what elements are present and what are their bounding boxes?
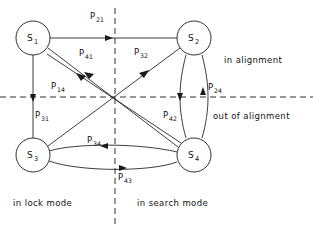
- edge-label-p42-sub: 42: [169, 115, 177, 122]
- node-s2-subscript: 2: [195, 38, 199, 46]
- edge-p43: [49, 161, 177, 171]
- edge-label-p42-base: P: [163, 110, 168, 120]
- region-label-in-lock-mode: in lock mode: [13, 198, 72, 208]
- edge-label-p31: P 31: [35, 110, 49, 122]
- edge-label-p21-base: P: [90, 11, 95, 21]
- node-s4-circle[interactable]: [177, 138, 211, 172]
- node-s1-subscript: 1: [34, 38, 38, 46]
- region-label-in-search-mode: in search mode: [137, 198, 208, 208]
- edge-label-p24-base: P: [208, 82, 213, 92]
- arrow-head-p24: [200, 87, 206, 95]
- edge-p21: [50, 35, 177, 41]
- edge-label-p14-base: P: [51, 81, 56, 91]
- node-s4-label: S: [188, 150, 194, 160]
- arrow-head-p31: [30, 94, 36, 102]
- node-s2-circle[interactable]: [177, 21, 211, 55]
- edge-label-p41-base: P: [79, 48, 84, 58]
- edge-label-p41-sub: 41: [85, 53, 93, 60]
- edge-label-p43: P 43: [118, 172, 132, 184]
- markov-chain-graph: S 1 S 2 S 3 S 4 P 21 P 41 P 32: [0, 0, 313, 236]
- edge-label-p32-sub: 32: [140, 52, 148, 59]
- region-label-out-of-alignment: out of alignment: [213, 111, 290, 121]
- node-s3[interactable]: S 3: [16, 138, 50, 172]
- node-s1[interactable]: S 1: [16, 21, 50, 55]
- edge-label-p31-sub: 31: [41, 115, 49, 122]
- arrow-head-p21: [105, 35, 113, 41]
- node-s2[interactable]: S 2: [177, 21, 211, 55]
- node-s1-circle[interactable]: [16, 21, 50, 55]
- edge-p42: [177, 55, 186, 138]
- edge-label-p24-sub: 24: [214, 87, 222, 94]
- edge-p24: [200, 55, 208, 138]
- arrow-head-p43: [119, 165, 127, 171]
- region-label-in-alignment: in alignment: [224, 55, 282, 65]
- edge-label-p43-base: P: [118, 172, 123, 182]
- edge-label-p41: P 41: [79, 48, 93, 60]
- state-transition-diagram: S 1 S 2 S 3 S 4 P 21 P 41 P 32: [0, 0, 313, 236]
- edge-label-p14-sub: 14: [57, 86, 65, 93]
- node-s3-subscript: 3: [34, 155, 38, 163]
- node-s3-circle[interactable]: [16, 138, 50, 172]
- arrow-head-p34: [100, 143, 108, 149]
- arrow-head-p14: [76, 73, 86, 81]
- edge-label-p32-base: P: [134, 47, 139, 57]
- edge-label-p32: P 32: [134, 47, 148, 59]
- node-s4[interactable]: S 4: [177, 138, 211, 172]
- edge-label-p31-base: P: [35, 110, 40, 120]
- edge-label-p34-sub: 34: [93, 140, 101, 147]
- edge-label-p43-sub: 43: [124, 177, 132, 184]
- edge-p14: [47, 54, 181, 143]
- node-s3-label: S: [27, 150, 33, 160]
- node-s1-label: S: [27, 33, 33, 43]
- edge-label-p21-sub: 21: [96, 16, 104, 23]
- node-s2-label: S: [188, 33, 194, 43]
- edge-label-p34-base: P: [87, 135, 92, 145]
- edge-label-p14: P 14: [51, 81, 65, 93]
- node-s4-subscript: 4: [195, 155, 199, 163]
- edge-label-p24: P 24: [208, 82, 222, 94]
- edge-label-p21: P 21: [90, 11, 104, 23]
- edge-p34: [49, 143, 177, 152]
- edge-label-p42: P 42: [163, 110, 177, 122]
- arrow-head-p41: [84, 72, 94, 79]
- edge-p31: [30, 55, 36, 138]
